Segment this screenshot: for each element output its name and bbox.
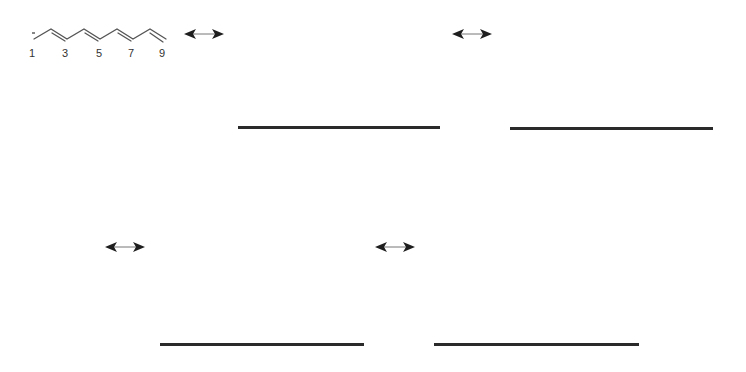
resonance-arrow-icon (373, 240, 417, 254)
resonance-arrow-icon (450, 27, 494, 41)
answer-line-2[interactable] (510, 127, 713, 130)
locant-7: 7 (128, 48, 134, 59)
answer-line-1[interactable] (238, 126, 440, 129)
locant-9: 9 (159, 48, 165, 59)
answer-line-4[interactable] (434, 343, 639, 346)
polyene-skeleton-icon (0, 0, 180, 70)
locant-5: 5 (96, 48, 102, 59)
answer-line-3[interactable] (160, 343, 364, 346)
resonance-arrow-icon (103, 240, 147, 254)
resonance-arrow-icon (182, 27, 226, 41)
starting-structure: 1 3 5 7 9 (0, 0, 180, 70)
locant-3: 3 (62, 48, 68, 59)
locant-1: 1 (29, 48, 35, 59)
